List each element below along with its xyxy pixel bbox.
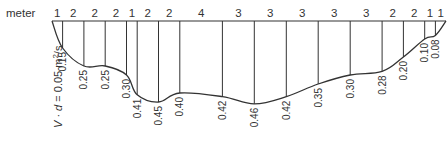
equals-value: = 0.05 m bbox=[52, 59, 64, 105]
segment-width-label: 3 bbox=[331, 7, 337, 19]
vertical-value-label: 0.25 bbox=[100, 70, 111, 90]
segment-width-label: 1 bbox=[54, 7, 60, 19]
vertical-value-label: 0.41 bbox=[132, 98, 143, 118]
unit-label: meter bbox=[6, 7, 36, 19]
vertical-value-label: 0.28 bbox=[377, 75, 388, 95]
vertical-value-label: 0.42 bbox=[281, 100, 292, 120]
segment-width-label: 3 bbox=[299, 7, 305, 19]
vertical-value-label: 0.46 bbox=[249, 107, 260, 127]
segment-width-label: 2 bbox=[91, 7, 97, 19]
vertical-value-label: 0.45 bbox=[153, 106, 164, 126]
per-second: /s bbox=[52, 45, 64, 54]
segment-width-label: 2 bbox=[411, 7, 417, 19]
segment-width-label: 3 bbox=[267, 7, 273, 19]
dot-operator: · bbox=[52, 111, 64, 121]
segment-width-label: 3 bbox=[235, 7, 241, 19]
cross-section-diagram: meter 12221224333332211 0.150.250.250.30… bbox=[0, 0, 448, 148]
segment-width-label: 2 bbox=[145, 7, 151, 19]
cross-section-svg: meter 12221224333332211 0.150.250.250.30… bbox=[0, 0, 448, 148]
segment-width-label: 2 bbox=[166, 7, 172, 19]
segment-width-label: 1 bbox=[427, 7, 433, 19]
vertical-value-label: 0.25 bbox=[78, 70, 89, 90]
segment-width-label: 1 bbox=[437, 7, 443, 19]
segment-width-label: 3 bbox=[363, 7, 369, 19]
vertical-value-label: 0.10 bbox=[419, 43, 430, 63]
vertical-value-label: 0.08 bbox=[430, 39, 441, 59]
segment-width-label: 4 bbox=[198, 7, 205, 19]
vertical-value-label: 0.35 bbox=[313, 88, 324, 108]
vertical-value-label: 0.40 bbox=[174, 97, 185, 117]
vertical-value-label: 0.20 bbox=[398, 61, 409, 81]
segment-width-label: 1 bbox=[129, 7, 135, 19]
segment-width-labels: 12221224333332211 bbox=[54, 7, 444, 19]
vertical-value-label: 0.42 bbox=[217, 100, 228, 120]
segment-width-label: 2 bbox=[70, 7, 76, 19]
segment-width-label: 2 bbox=[390, 7, 396, 19]
vertical-value-label: 0.30 bbox=[121, 79, 132, 99]
vertical-value-label: 0.30 bbox=[345, 79, 356, 99]
vertical-value-labels: 0.150.250.250.300.410.450.400.420.460.42… bbox=[57, 39, 441, 127]
segment-width-label: 2 bbox=[113, 7, 119, 19]
